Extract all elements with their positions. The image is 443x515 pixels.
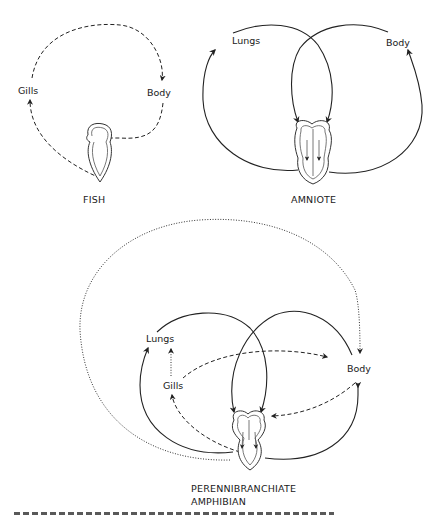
clipped-caption bbox=[14, 508, 334, 515]
fish-diagram: Gills Body FISH bbox=[18, 24, 171, 205]
amphibian-gills-label: Gills bbox=[163, 380, 183, 391]
amphibian-heart bbox=[232, 411, 265, 470]
fish-body-label: Body bbox=[147, 87, 171, 98]
amphibian-title-line2: AMPHIBIAN bbox=[191, 496, 246, 507]
amphibian-lungs-label: Lungs bbox=[146, 333, 174, 344]
amniote-heart bbox=[295, 121, 332, 184]
fish-title: FISH bbox=[83, 194, 105, 205]
amniote-lungs-label: Lungs bbox=[232, 35, 260, 46]
amniote-diagram: Lungs Body AMNIOTE bbox=[203, 25, 422, 205]
circulation-diagram: Gills Body FISH Lungs Body AMNIOTE bbox=[0, 0, 443, 515]
amniote-body-label: Body bbox=[386, 37, 410, 48]
fish-gills-label: Gills bbox=[18, 85, 38, 96]
fish-heart bbox=[87, 123, 112, 182]
amphibian-title-line1: PERENNIBRANCHIATE bbox=[191, 483, 296, 494]
amniote-title: AMNIOTE bbox=[291, 194, 336, 205]
amphibian-body-label: Body bbox=[347, 363, 371, 374]
amphibian-diagram: Lungs Gills Body PERENNIBRANCHIATE AMPHI… bbox=[80, 219, 371, 507]
